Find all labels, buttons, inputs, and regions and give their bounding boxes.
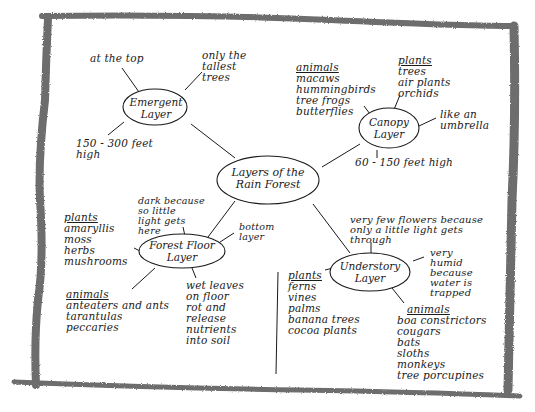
canopy-plants-list: plants trees air plants orchids (398, 55, 451, 99)
canopy-layer-node: Canopy Layer (360, 116, 418, 140)
fact-line: trees (202, 72, 247, 83)
understory-fact-flowers: very few flowers because only a little l… (350, 215, 483, 245)
fact-line: high (76, 149, 153, 160)
fact-line: umbrella (440, 120, 489, 131)
canopy-animals-list: animals macaws hummingbirds tree frogs b… (296, 62, 376, 117)
fact-line: trapped (430, 288, 473, 298)
list-item: cocoa plants (288, 325, 360, 336)
fact-line: at the top (90, 53, 144, 64)
rainforest-concept-map: Emergent Layer Layers of the Rain Forest… (0, 0, 535, 412)
forest-floor-animals-list: animals anteaters and ants tarantulas pe… (66, 289, 169, 333)
central-label-line: Rain Forest (220, 179, 316, 191)
node-label-line: Layer (125, 108, 187, 120)
node-label-line: Forest Floor (140, 239, 224, 251)
canopy-fact-umbrella: like an umbrella (440, 109, 489, 131)
emergent-fact-height: 150 - 300 feet high (76, 138, 153, 160)
list-item: mushrooms (64, 256, 128, 267)
fact-line: layer (239, 232, 274, 242)
list-item: tree porcupines (397, 370, 487, 381)
list-item: butterflies (296, 106, 376, 117)
node-label-line: Layer (360, 128, 418, 140)
forest-floor-plants-list: plants amaryllis moss herbs mushrooms (64, 212, 128, 267)
forest-floor-fact-leaves: wet leaves on floor rot and release nutr… (186, 280, 244, 346)
fact-line: here (138, 226, 205, 236)
forest-floor-fact-dark: dark because so little light gets here (138, 196, 205, 236)
forest-floor-fact-bottom: bottom layer (239, 222, 274, 242)
fact-line: into soil (186, 335, 244, 346)
fact-line: 60 - 150 feet high (355, 157, 453, 168)
fact-line: through (350, 235, 483, 245)
node-label-line: Layer (140, 251, 224, 263)
understory-plants-list: plants ferns vines palms banana trees co… (288, 270, 360, 336)
central-topic-node: Layers of the Rain Forest (220, 167, 316, 191)
emergent-fact-tallest: only the tallest trees (202, 50, 247, 83)
node-label-line: Emergent (125, 96, 187, 108)
emergent-fact-top: at the top (90, 53, 144, 64)
canopy-fact-height: 60 - 150 feet high (355, 157, 453, 168)
understory-animals-list: animals boa constrictors cougars bats sl… (397, 304, 487, 381)
understory-fact-humid: very humid because water is trapped (430, 248, 473, 298)
node-label-line: Canopy (360, 116, 418, 128)
forest-floor-layer-node: Forest Floor Layer (140, 239, 224, 263)
list-item: orchids (398, 88, 451, 99)
list-item: peccaries (66, 322, 169, 333)
emergent-layer-node: Emergent Layer (125, 96, 187, 120)
